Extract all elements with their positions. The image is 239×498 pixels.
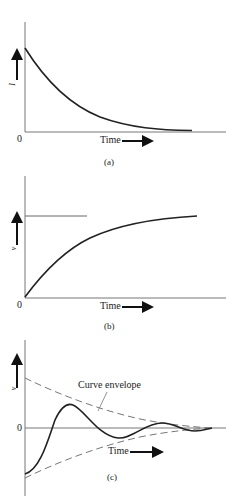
origin-label-c: 0 [17, 422, 22, 433]
caption-b: (b) [104, 321, 115, 331]
origin-label-a: 0 [17, 133, 22, 144]
x-label-a: Time [100, 134, 121, 145]
y-label-a: I [8, 83, 17, 86]
origin-label-b: 0 [17, 299, 22, 310]
x-label-c: Time [108, 445, 129, 456]
x-label-b: Time [100, 300, 121, 311]
caption-a: (a) [104, 157, 114, 167]
caption-c: (c) [107, 472, 117, 482]
annotation-label: Curve envelope [78, 379, 141, 390]
y-label-b: v [9, 247, 18, 251]
y-label-c: v [9, 387, 18, 391]
